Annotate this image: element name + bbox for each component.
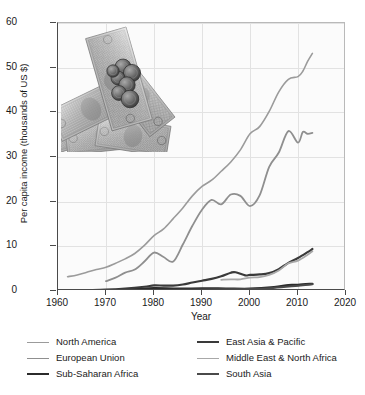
legend-column-left: North AmericaEuropean UnionSub-Saharan A… xyxy=(27,334,138,382)
legend-item-label: South Asia xyxy=(226,369,271,379)
x-axis-title: Year xyxy=(57,311,345,322)
legend-line-swatch xyxy=(197,373,219,375)
legend-line-swatch xyxy=(27,358,49,359)
legend-item: South Asia xyxy=(197,366,337,382)
y-axis-tick-label: 20 xyxy=(0,196,17,206)
chart-legend: North AmericaEuropean UnionSub-Saharan A… xyxy=(0,334,365,386)
series-lines xyxy=(58,23,345,290)
x-axis-tick-mark xyxy=(153,290,154,295)
x-axis-tick-label: 1990 xyxy=(179,298,223,308)
series-line xyxy=(221,251,312,280)
legend-item: North America xyxy=(27,334,138,350)
y-axis-tick-label: 0 xyxy=(0,285,17,295)
x-axis-tick-label: 1970 xyxy=(83,298,127,308)
x-axis-tick-label: 1960 xyxy=(35,298,79,308)
y-axis-tick-mark xyxy=(50,290,56,291)
series-line xyxy=(106,131,312,281)
y-axis-tick-label: 30 xyxy=(0,151,17,161)
x-axis-tick-mark xyxy=(249,290,250,295)
y-axis-tick-label: 60 xyxy=(0,17,17,27)
plot-area xyxy=(57,22,345,290)
legend-item: European Union xyxy=(27,350,138,366)
legend-line-swatch xyxy=(197,341,219,343)
y-axis-tick-mark xyxy=(50,22,56,23)
legend-column-right: East Asia & PacificMiddle East & North A… xyxy=(197,334,337,382)
x-axis-tick-mark xyxy=(345,290,346,295)
x-axis-tick-mark xyxy=(57,290,58,295)
legend-line-swatch xyxy=(27,342,49,343)
y-axis-tick-label: 40 xyxy=(0,106,17,116)
y-axis-tick-mark xyxy=(50,245,56,246)
legend-item-label: North America xyxy=(56,337,116,347)
legend-line-swatch xyxy=(27,373,49,375)
legend-item-label: Middle East & North Africa xyxy=(226,353,337,363)
x-axis-tick-label: 1980 xyxy=(131,298,175,308)
y-axis-tick-mark xyxy=(50,67,56,68)
y-axis-tick-label: 10 xyxy=(0,240,17,250)
plot-area-wrapper xyxy=(57,22,345,290)
legend-item: East Asia & Pacific xyxy=(197,334,337,350)
x-axis-tick-label: 2010 xyxy=(275,298,319,308)
legend-item-label: Sub-Saharan Africa xyxy=(56,369,138,379)
legend-line-swatch xyxy=(197,358,219,359)
y-axis-tick-label: 50 xyxy=(0,62,17,72)
series-line xyxy=(68,53,313,276)
y-axis-tick-mark xyxy=(50,156,56,157)
y-axis-title: Per capita income (thousands of US $) xyxy=(18,29,29,259)
legend-item: Middle East & North Africa xyxy=(197,350,337,366)
x-axis-tick-mark xyxy=(201,290,202,295)
series-line xyxy=(68,249,313,290)
x-axis-tick-label: 2020 xyxy=(323,298,365,308)
legend-item: Sub-Saharan Africa xyxy=(27,366,138,382)
y-axis-tick-mark xyxy=(50,111,56,112)
x-axis-tick-mark xyxy=(105,290,106,295)
x-axis-tick-label: 2000 xyxy=(227,298,271,308)
legend-item-label: European Union xyxy=(56,353,125,363)
x-axis-tick-mark xyxy=(297,290,298,295)
y-axis-tick-mark xyxy=(50,201,56,202)
chart-figure: Per capita income (thousands of US $) 01… xyxy=(0,0,365,330)
chart-page: Per capita income (thousands of US $) 01… xyxy=(0,0,365,395)
legend-item-label: East Asia & Pacific xyxy=(226,337,305,347)
